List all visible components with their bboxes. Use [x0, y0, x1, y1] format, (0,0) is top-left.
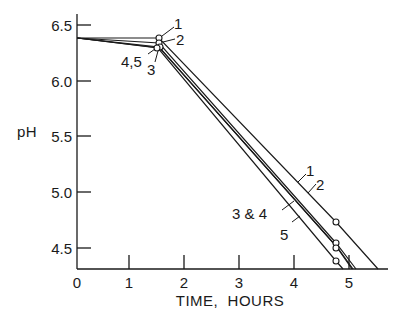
- x-tick-label: 4: [290, 274, 298, 291]
- leader-bottom-5: [292, 216, 300, 222]
- series-label-34: 3 & 4: [232, 205, 267, 222]
- series-5-line: [77, 38, 343, 269]
- series-4-line: [77, 38, 353, 269]
- series-3-line: [77, 38, 352, 269]
- y-axis-title: pH: [17, 123, 37, 140]
- y-tick-label: 5.5: [51, 128, 72, 145]
- x-axis-title: TIME, HOURS: [176, 292, 285, 309]
- series-label-1: 1: [174, 15, 182, 32]
- y-tick-label: 4.5: [51, 240, 72, 257]
- series-5-marker: [154, 45, 160, 51]
- y-tick-label: 6.0: [51, 73, 72, 90]
- x-tick-label: 1: [125, 274, 133, 291]
- series-label-2: 2: [176, 31, 184, 48]
- x-tick-label: 5: [345, 274, 353, 291]
- y-tick-label: 6.5: [51, 17, 72, 34]
- chart-svg: 6.5 6.0 5.5 5.0 4.5 pH 0 1 2 3 4 5 TIME,…: [0, 0, 404, 328]
- series-label-3: 3: [147, 61, 155, 78]
- series-label-2: 2: [316, 176, 324, 193]
- series-1-line: [77, 38, 378, 269]
- leader-top-1: [162, 27, 174, 36]
- leader-top-45: [148, 49, 155, 54]
- leader-top-2: [163, 39, 175, 42]
- series-label-1: 1: [306, 162, 314, 179]
- x-tick-label: 0: [73, 274, 81, 291]
- leader-bottom-2: [308, 184, 316, 193]
- series-5-marker: [333, 258, 339, 264]
- leader-top-3: [155, 51, 158, 62]
- series-label-5: 5: [280, 226, 288, 243]
- y-tick-label: 5.0: [51, 184, 72, 201]
- x-tick-label: 3: [235, 274, 243, 291]
- leader-bottom-1: [298, 174, 306, 182]
- series-1-marker: [333, 219, 339, 225]
- series-34-marker: [333, 245, 339, 251]
- x-tick-label: 2: [180, 274, 188, 291]
- ph-vs-time-chart: 6.5 6.0 5.5 5.0 4.5 pH 0 1 2 3 4 5 TIME,…: [0, 0, 404, 328]
- series-label-45: 4,5: [121, 53, 142, 70]
